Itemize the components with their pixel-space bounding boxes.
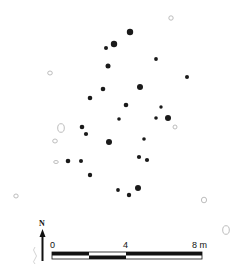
open-feature (173, 125, 177, 129)
posthole (66, 159, 71, 164)
open-feature (48, 71, 53, 75)
posthole (124, 103, 129, 108)
posthole (185, 75, 189, 79)
posthole (101, 87, 106, 92)
posthole (84, 132, 88, 136)
posthole (142, 137, 146, 141)
posthole (137, 84, 143, 90)
posthole (88, 173, 92, 177)
scale-label-8m: 8 m (192, 241, 207, 250)
scale-bar (52, 252, 202, 259)
north-label: N (39, 219, 45, 228)
open-features-layer (14, 16, 230, 235)
posthole (137, 155, 141, 159)
scale-label-4: 4 (123, 241, 128, 250)
open-feature (201, 197, 206, 203)
posthole (127, 193, 131, 197)
posthole (104, 46, 108, 50)
posthole (154, 57, 158, 61)
posthole (88, 96, 93, 101)
open-feature (53, 139, 58, 143)
posthole (111, 41, 117, 47)
site-plan (0, 0, 245, 280)
postholes-layer (66, 29, 189, 197)
open-feature (14, 194, 18, 198)
posthole (135, 185, 141, 191)
open-feature (223, 226, 230, 235)
edge-mark (34, 247, 37, 264)
posthole (127, 29, 133, 35)
posthole (145, 158, 149, 162)
posthole (106, 64, 111, 69)
posthole (117, 117, 121, 121)
posthole (154, 116, 158, 120)
open-feature (58, 124, 65, 133)
posthole (165, 115, 171, 121)
north-arrow-icon (40, 229, 46, 261)
posthole (106, 139, 112, 145)
posthole (79, 159, 83, 163)
posthole (159, 105, 162, 108)
posthole (80, 125, 85, 130)
scale-label-0: 0 (50, 241, 55, 250)
open-feature (54, 161, 59, 164)
posthole (116, 188, 120, 192)
open-feature (169, 16, 173, 20)
